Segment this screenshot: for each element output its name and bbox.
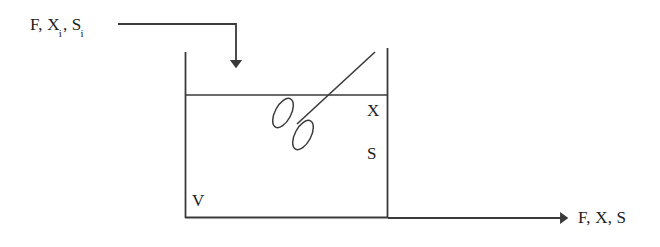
diagram-canvas — [0, 0, 660, 247]
inlet-stream-arrow — [118, 24, 236, 64]
inlet-stream-label: F, Xi, Si — [30, 16, 85, 36]
biomass-concentration-label: X — [367, 102, 379, 119]
impeller-blades — [268, 95, 317, 153]
impeller-blade-lower — [288, 117, 317, 153]
impeller-blade-upper — [268, 95, 297, 131]
inlet-label-subscript-2: i — [81, 27, 84, 39]
substrate-concentration-label: S — [367, 145, 377, 162]
chemostat-diagram: F, Xi, Si F, X, S X S V — [0, 0, 660, 247]
inlet-label-mid: , S — [63, 15, 82, 34]
impeller-shaft — [297, 52, 375, 124]
inlet-label-prefix: F, X — [30, 15, 60, 34]
tank-vessel — [185, 48, 388, 218]
inlet-stream-line — [118, 24, 236, 64]
outlet-stream-label: F, X, S — [578, 209, 626, 226]
volume-label: V — [192, 192, 204, 209]
inlet-label-subscript-1: i — [59, 27, 62, 39]
